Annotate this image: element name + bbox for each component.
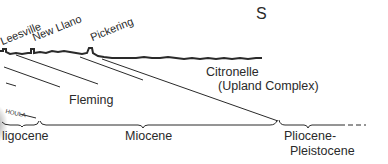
- formation-label-upland-complex: (Upland Complex): [218, 80, 319, 93]
- formation-label-citronelle: Citronelle: [206, 66, 259, 79]
- ground-surface-line: [0, 48, 262, 59]
- epoch-brace-pliocene-pleistocene: [279, 120, 345, 128]
- formation-label-fleming: Fleming: [69, 94, 113, 107]
- contact-line-5: [6, 83, 16, 86]
- contact-line-2: [4, 67, 60, 87]
- epoch-label-oligocene: ligocene: [2, 130, 49, 143]
- epoch-label-miocene: Miocene: [125, 130, 172, 143]
- geologic-cross-section: S Leesville New Llano Pickering Fleming …: [0, 0, 388, 164]
- contact-line-3: [80, 57, 143, 80]
- direction-label-south: S: [256, 6, 267, 22]
- epoch-label-pliocene: Pliocene-: [284, 130, 336, 143]
- epoch-label-pleistocene: Pleistocene: [290, 145, 355, 158]
- epoch-brace-miocene: [40, 120, 277, 128]
